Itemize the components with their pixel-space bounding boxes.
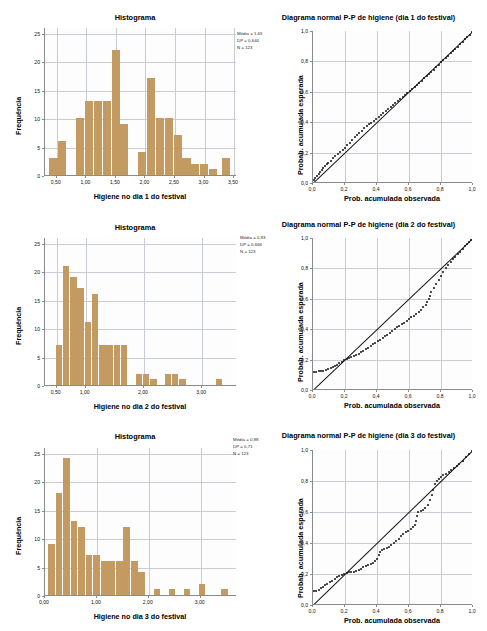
x-axis-label: Higiene no dia 2 do festival: [44, 402, 236, 411]
y-tick-label: 15: [22, 298, 40, 304]
y-tick-label: 15: [22, 88, 40, 94]
y-tick-label: 25: [22, 451, 40, 457]
histogram-bar: [174, 135, 182, 175]
gridline-vertical: [377, 238, 378, 389]
data-point: [393, 542, 395, 544]
spss-output-page: Histograma Frequência Higiene no dia 1 d…: [0, 0, 487, 631]
y-tick-label: 0,6: [290, 296, 308, 302]
data-point: [409, 90, 411, 92]
data-point: [327, 162, 329, 164]
gridline-horizontal: [313, 512, 472, 513]
histogram-bar: [123, 527, 130, 595]
gridline-horizontal: [313, 122, 472, 123]
data-point: [410, 528, 412, 530]
histogram-bar: [216, 379, 223, 385]
x-tick-label: 1,0: [468, 608, 475, 614]
data-point: [414, 86, 416, 88]
y-tick-mark: [310, 92, 312, 93]
y-tick-mark: [310, 122, 312, 123]
plot-inner: [313, 238, 472, 389]
gridline-horizontal: [45, 34, 236, 35]
gridline-horizontal: [45, 511, 236, 512]
data-point: [318, 173, 320, 175]
y-tick-mark: [42, 119, 44, 120]
histogram-bar: [156, 118, 164, 175]
gridline-horizontal: [45, 119, 236, 120]
histogram-bar: [221, 589, 228, 595]
gridline-vertical: [202, 238, 203, 385]
y-tick-mark: [42, 386, 44, 387]
data-point: [322, 586, 324, 588]
y-tick-label: 20: [22, 479, 40, 485]
data-point: [395, 540, 397, 542]
y-tick-label: 25: [22, 31, 40, 37]
x-tick-label: 1,00: [91, 599, 101, 605]
data-point: [438, 478, 440, 480]
gridline-horizontal: [45, 148, 236, 149]
y-tick-label: 0,6: [290, 89, 308, 95]
data-point: [457, 253, 459, 255]
histogram-bar: [209, 169, 217, 175]
y-tick-label: 0,0: [290, 602, 308, 608]
x-tick-label: 0,50: [51, 179, 61, 185]
y-tick-mark: [42, 176, 44, 177]
y-tick-mark: [42, 272, 44, 273]
y-tick-label: 0,8: [290, 58, 308, 64]
gridline-horizontal: [313, 574, 472, 575]
panel-day1-histogram: Histograma Frequência Higiene no dia 1 d…: [0, 0, 250, 205]
x-axis-label: Prob. acumulada observada: [312, 401, 472, 410]
data-point: [420, 309, 422, 311]
chart-title: Diagrama normal P-P de higiene (dia 3 do…: [250, 431, 487, 440]
data-point: [379, 551, 381, 553]
data-point: [355, 570, 357, 572]
gridline-horizontal: [45, 62, 236, 63]
data-point: [331, 580, 333, 582]
data-point: [462, 248, 464, 250]
histogram-bar: [147, 78, 155, 175]
data-point: [321, 169, 323, 171]
panel-day1-pp: Diagrama normal P-P de higiene (dia 1 do…: [250, 0, 487, 205]
data-point: [445, 57, 447, 59]
y-tick-mark: [42, 482, 44, 483]
data-point: [416, 84, 418, 86]
histogram-bar: [85, 101, 93, 175]
y-tick-label: 5: [22, 145, 40, 151]
data-point: [394, 328, 396, 330]
gridline-horizontal: [45, 482, 236, 483]
gridline-vertical: [441, 31, 442, 182]
data-point: [430, 71, 432, 73]
x-tick-label: 1,00: [80, 389, 90, 395]
plot-area: [44, 238, 236, 386]
histogram-bar: [136, 374, 143, 385]
histogram-bar: [165, 374, 172, 385]
gridline-vertical: [409, 31, 410, 182]
data-point: [407, 530, 409, 532]
data-point: [366, 125, 368, 127]
y-tick-mark: [310, 390, 312, 391]
data-point: [326, 583, 328, 585]
y-tick-mark: [42, 539, 44, 540]
gridline-horizontal: [45, 454, 236, 455]
gridline-vertical: [144, 238, 145, 385]
data-point: [383, 548, 385, 550]
y-tick-mark: [310, 153, 312, 154]
y-tick-label: 0: [22, 593, 40, 599]
gridline-vertical: [345, 450, 346, 604]
gridline-vertical: [201, 448, 202, 595]
data-point: [367, 347, 369, 349]
gridline-vertical: [149, 448, 150, 595]
histogram-bar: [121, 345, 128, 385]
y-tick-label: 1,0: [290, 28, 308, 34]
histogram-bar: [78, 527, 85, 595]
data-point: [436, 480, 438, 482]
x-tick-label: 2,00: [139, 179, 149, 185]
data-point: [402, 96, 404, 98]
x-tick-label: 3,50: [228, 179, 238, 185]
histogram-bar: [92, 294, 99, 385]
data-point: [318, 589, 320, 591]
data-point: [385, 110, 387, 112]
panel-day3-histogram: Histograma Frequência Higiene no dia 3 d…: [0, 420, 250, 631]
y-tick-mark: [42, 244, 44, 245]
data-point: [415, 520, 417, 522]
data-point: [425, 304, 427, 306]
